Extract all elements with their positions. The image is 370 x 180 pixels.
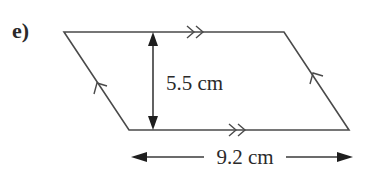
parallelogram-diagram: e) 5.5 cm 9.2 cm xyxy=(0,0,370,180)
part-label: e) xyxy=(12,18,29,43)
height-dimension-arrow xyxy=(148,32,158,130)
arrowhead-right-icon xyxy=(337,152,353,162)
height-label: 5.5 cm xyxy=(166,71,223,95)
arrowhead-up-icon xyxy=(148,32,158,46)
left-edge-single-arrow-icon xyxy=(94,83,107,94)
base-label: 9.2 cm xyxy=(216,145,273,169)
arrowhead-down-icon xyxy=(148,116,158,130)
arrowhead-left-icon xyxy=(131,152,147,162)
